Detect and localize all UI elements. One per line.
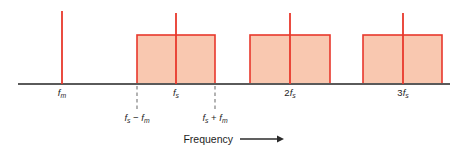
spectrum-canvas: fm fs 2fs 3fs fs − fm fs + fm Frequency: [0, 0, 458, 149]
spectrum-diagram: fm fs 2fs 3fs fs − fm fs + fm Frequency: [0, 0, 458, 149]
tick-label-fs: fs: [173, 87, 180, 99]
frequency-axis-caption: Frequency: [183, 133, 233, 145]
tick-label-2fs: 2fs: [284, 87, 296, 99]
tick-label-3fs: 3fs: [397, 87, 409, 99]
sideband-label-lower: fs − fm: [124, 112, 150, 124]
sideband-label-upper: fs + fm: [202, 112, 228, 124]
frequency-direction-arrow-head: [277, 136, 284, 143]
tick-label-fm: fm: [58, 87, 67, 99]
